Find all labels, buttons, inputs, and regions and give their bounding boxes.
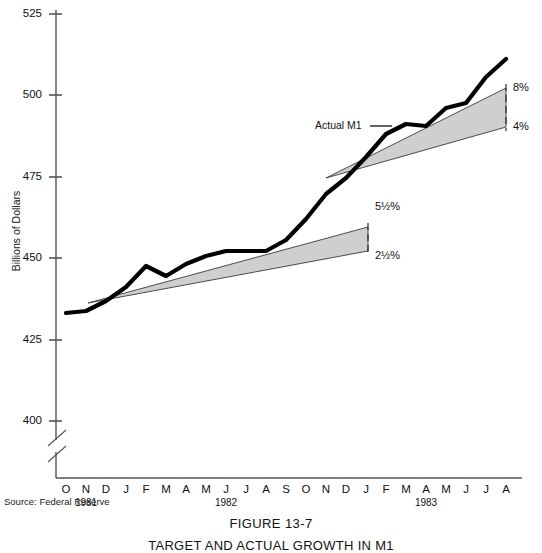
x-tick-label-11: S (276, 483, 296, 495)
x-tick-label-22: A (496, 483, 516, 495)
y-tick-label-525: 525 (8, 7, 42, 19)
target-cone-1982 (88, 227, 368, 303)
x-year-label-1983: 1983 (406, 497, 446, 508)
x-tick-label-10: A (256, 483, 276, 495)
x-tick-label-5: M (156, 483, 176, 495)
cone-label-2point5-percent: 2½% (375, 249, 400, 261)
figure-number: FIGURE 13-7 (0, 516, 542, 531)
actual-m1-line (66, 59, 506, 313)
x-tick-label-0: O (56, 483, 76, 495)
x-tick-label-8: J (216, 483, 236, 495)
x-tick-label-13: N (316, 483, 336, 495)
axis-break-slash-lower (48, 446, 66, 462)
cone-label-4-percent: 4% (513, 120, 529, 132)
axis-break-slash-upper (48, 430, 66, 446)
cone-label-8-percent: 8% (513, 81, 529, 93)
y-tick-label-500: 500 (8, 88, 42, 100)
target-cone-1983 (326, 88, 506, 178)
x-tick-label-9: J (236, 483, 256, 495)
cone-label-5point5-percent: 5½% (375, 200, 400, 212)
y-tick-label-475: 475 (8, 170, 42, 182)
x-tick-label-18: A (416, 483, 436, 495)
x-tick-label-15: J (356, 483, 376, 495)
x-tick-label-17: M (396, 483, 416, 495)
x-tick-label-19: M (436, 483, 456, 495)
x-tick-label-16: F (376, 483, 396, 495)
actual-m1-label: Actual M1 (315, 119, 362, 131)
x-tick-label-21: J (476, 483, 496, 495)
x-tick-label-20: J (456, 483, 476, 495)
x-tick-label-7: M (196, 483, 216, 495)
figure-title: TARGET AND ACTUAL GROWTH IN M1 (0, 538, 542, 553)
y-tick-label-400: 400 (8, 414, 42, 426)
x-tick-label-4: F (136, 483, 156, 495)
y-axis-title: Billions of Dollars (10, 171, 22, 291)
x-tick-label-12: O (296, 483, 316, 495)
source-note: Source: Federal Reserve (4, 496, 110, 507)
x-tick-label-3: J (116, 483, 136, 495)
x-tick-label-2: D (96, 483, 116, 495)
x-year-label-1982: 1982 (206, 497, 246, 508)
x-tick-label-1: N (76, 483, 96, 495)
y-tick-label-425: 425 (8, 333, 42, 345)
x-tick-label-14: D (336, 483, 356, 495)
x-tick-label-6: A (176, 483, 196, 495)
y-tick-label-450: 450 (8, 251, 42, 263)
